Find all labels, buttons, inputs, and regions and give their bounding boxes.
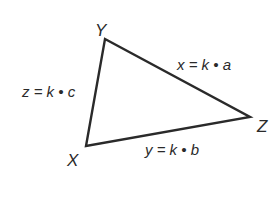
vertex-label-y: Y: [95, 22, 106, 39]
edge-label-yz: x = k • a: [177, 57, 231, 72]
edge-label-xz: y = k • b: [145, 142, 199, 157]
vertex-label-x: X: [67, 152, 78, 169]
vertex-label-z: Z: [257, 118, 267, 135]
edge-label-xy: z = k • c: [22, 84, 75, 99]
triangle-diagram: Y Z X x = k • a z = k • c y = k • b: [0, 0, 279, 199]
